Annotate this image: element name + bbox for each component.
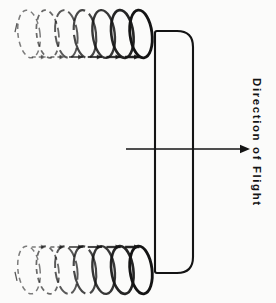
vortex-tail-tick [15,272,17,281]
upper-trailing-vortex [15,9,155,60]
vortex-circulation-arrowhead [41,54,46,59]
flight-arrow-head [240,145,250,153]
diagram-canvas [0,0,276,303]
vortex-tail-tick [15,23,17,32]
wing-planform [155,31,193,273]
lower-trailing-vortex [15,244,155,295]
wing-outline [155,31,193,273]
vortex-diagram-figure: Direction of Flight [0,0,276,303]
flight-direction-arrow [126,145,250,153]
